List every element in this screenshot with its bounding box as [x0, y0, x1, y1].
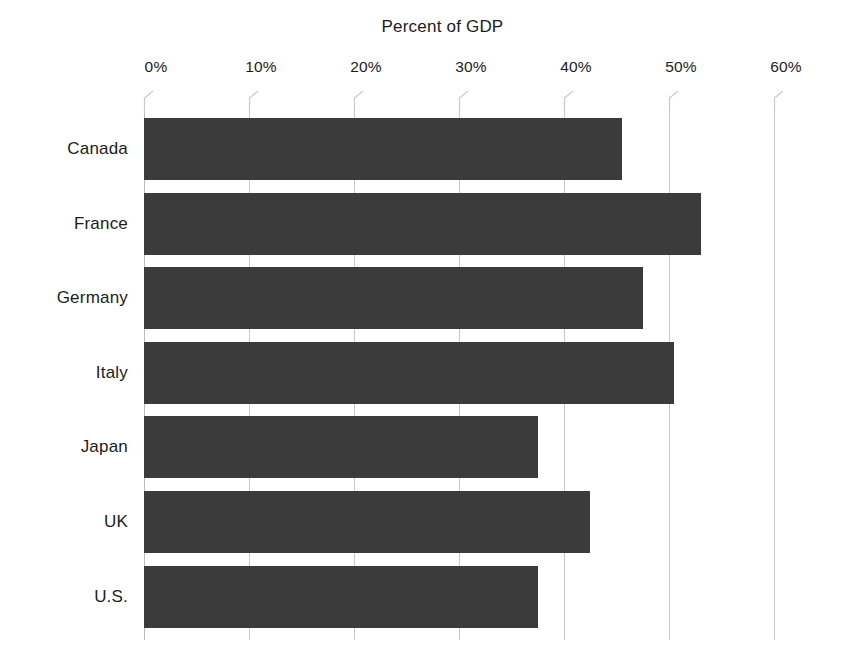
- bar: [144, 118, 622, 180]
- bar: [144, 342, 674, 404]
- category-label: U.S.: [0, 566, 128, 628]
- x-tick-label: 0%: [145, 58, 168, 76]
- bar-chart: Percent of GDP CanadaFranceGermanyItalyJ…: [0, 0, 845, 669]
- x-tick-label: 50%: [665, 58, 697, 76]
- category-label: Italy: [0, 342, 128, 404]
- tick-mark-0pct: [144, 91, 168, 113]
- chart-title: Percent of GDP: [0, 17, 845, 37]
- bar-row: [144, 416, 774, 478]
- category-label: UK: [0, 491, 128, 553]
- bar-row: [144, 491, 774, 553]
- bar-row: [144, 118, 774, 180]
- plot-area: 0%10%20%30%40%50%60%: [144, 113, 774, 640]
- x-tick-label: 20%: [350, 58, 382, 76]
- category-label: France: [0, 193, 128, 255]
- tick-mark-30pct: [459, 91, 483, 113]
- gridline-60pct: [774, 113, 775, 640]
- category-label: Canada: [0, 118, 128, 180]
- x-tick-label: 30%: [455, 58, 487, 76]
- bar-row: [144, 193, 774, 255]
- tick-mark-10pct: [249, 91, 273, 113]
- tick-mark-50pct: [669, 91, 693, 113]
- bar: [144, 267, 643, 329]
- x-tick-label: 60%: [770, 58, 802, 76]
- bar: [144, 193, 701, 255]
- bar-row: [144, 566, 774, 628]
- category-label: Germany: [0, 267, 128, 329]
- category-label: Japan: [0, 416, 128, 478]
- x-tick-label: 40%: [560, 58, 592, 76]
- tick-mark-20pct: [354, 91, 378, 113]
- tick-mark-40pct: [564, 91, 588, 113]
- bar-row: [144, 267, 774, 329]
- category-axis: CanadaFranceGermanyItalyJapanUKU.S.: [0, 113, 128, 640]
- bar: [144, 491, 590, 553]
- bar-row: [144, 342, 774, 404]
- bar: [144, 566, 538, 628]
- bar: [144, 416, 538, 478]
- tick-mark-60pct: [774, 91, 798, 113]
- x-tick-label: 10%: [245, 58, 277, 76]
